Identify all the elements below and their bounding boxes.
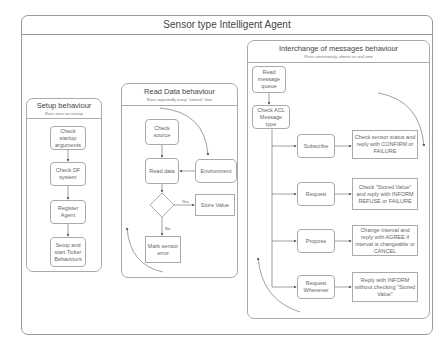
connectors <box>0 0 445 349</box>
